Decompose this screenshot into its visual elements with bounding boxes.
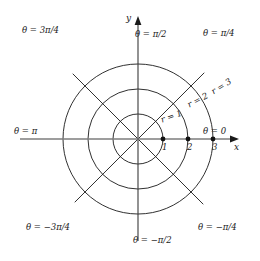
ray-pi-4 (75, 73, 204, 202)
y-axis-label: y (126, 14, 131, 23)
polar-grid-figure: θ = 3π/4 θ = π/2 θ = π/4 θ = π θ = 0 θ =… (0, 0, 260, 261)
tick-dot-2 (186, 137, 191, 142)
ray-label-neg-pi-2: θ = −π/2 (133, 236, 172, 245)
ray-label-neg-3pi-4: θ = −3π/4 (26, 223, 70, 232)
ray-label-pi-2: θ = π/2 (135, 30, 167, 39)
x-axis (20, 136, 239, 143)
ray-label-0: θ = 0 (203, 127, 226, 136)
tick-label-3: 3 (212, 143, 217, 152)
x-axis-label: x (234, 143, 239, 152)
tick-dot-1 (161, 137, 166, 142)
y-axis (135, 16, 142, 241)
y-axis-arrow-icon (135, 16, 142, 25)
ray-label-pi: θ = π (14, 127, 37, 136)
tick-dot-3 (211, 137, 216, 142)
tick-label-2: 2 (187, 143, 192, 152)
ray-label-pi-4: θ = π/4 (203, 29, 235, 38)
ray-label-neg-pi-4: θ = −π/4 (198, 223, 237, 232)
ray-label-3pi-4: θ = 3π/4 (22, 26, 59, 35)
tick-label-1: 1 (162, 143, 167, 152)
